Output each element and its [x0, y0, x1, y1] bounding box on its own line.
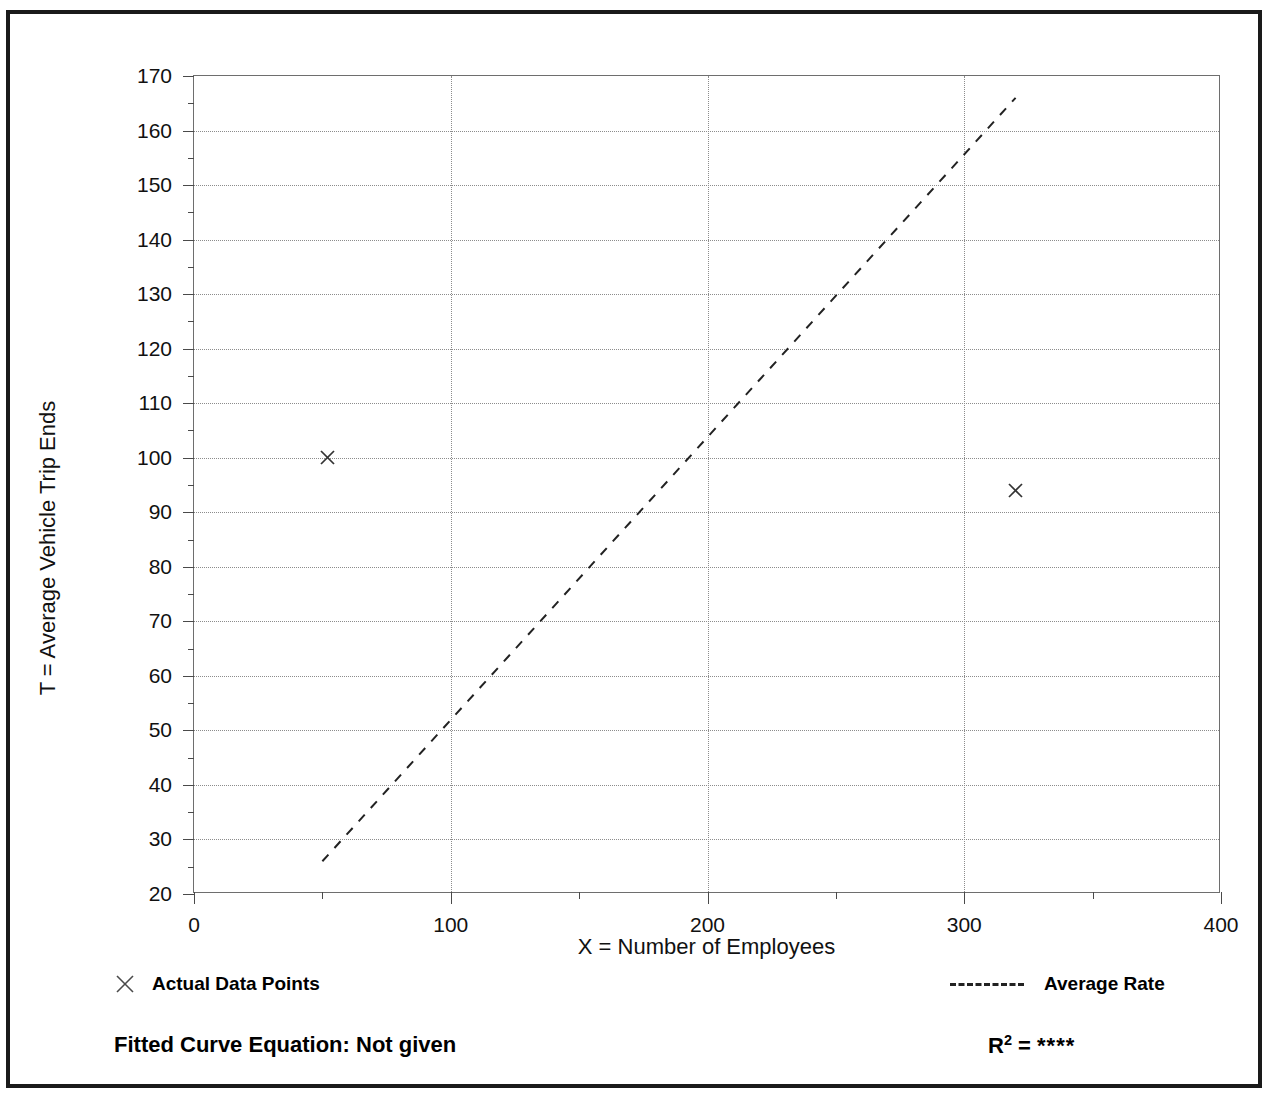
y-axis-tick	[183, 621, 194, 622]
chart-annotations: Fitted Curve Equation: Not given R2 = **…	[10, 1029, 1266, 1059]
y-axis-tick	[183, 294, 194, 295]
y-axis-tick-label: 20	[126, 883, 172, 904]
chart-frame: T = Average Vehicle Trip Ends X = Number…	[6, 10, 1262, 1088]
y-axis-tick	[183, 185, 194, 186]
x-axis-tick-label: 400	[1176, 914, 1266, 935]
chart-legend: Actual Data Points Average Rate	[10, 969, 1266, 999]
y-axis-tick	[183, 894, 194, 895]
r-squared-equals: =	[1012, 1033, 1037, 1058]
y-axis-tick-label: 120	[126, 338, 172, 359]
y-axis-tick-label: 80	[126, 556, 172, 577]
y-axis-tick-label: 160	[126, 120, 172, 141]
y-axis-tick-label: 60	[126, 665, 172, 686]
r-squared-prefix: R	[988, 1033, 1004, 1058]
y-axis-tick	[183, 76, 194, 77]
y-axis-tick-label: 130	[126, 283, 172, 304]
y-axis-tick	[183, 131, 194, 132]
plot-area: 2030405060708090100110120130140150160170…	[193, 75, 1220, 893]
y-axis-tick-label: 150	[126, 174, 172, 195]
x-axis-tick-label: 200	[663, 914, 753, 935]
y-axis-tick-label: 170	[126, 65, 172, 86]
y-axis-tick-label: 110	[126, 392, 172, 413]
y-axis-tick	[183, 240, 194, 241]
legend-entry-actual-data-points: Actual Data Points	[114, 969, 320, 999]
y-axis-tick-label: 100	[126, 447, 172, 468]
x-axis-tick-label: 0	[149, 914, 239, 935]
y-axis-tick	[183, 676, 194, 677]
y-axis-tick-label: 70	[126, 610, 172, 631]
x-marker-icon	[114, 973, 136, 995]
y-axis-tick-label: 50	[126, 719, 172, 740]
trend-line-segment	[322, 98, 1015, 861]
r-squared-exponent: 2	[1004, 1032, 1012, 1048]
y-axis-tick	[183, 349, 194, 350]
y-axis-title: T = Average Vehicle Trip Ends	[35, 288, 61, 808]
y-axis-tick	[183, 785, 194, 786]
y-axis-tick	[183, 730, 194, 731]
x-axis-title: X = Number of Employees	[193, 934, 1220, 960]
x-axis-tick	[1221, 892, 1222, 904]
y-axis-tick	[183, 512, 194, 513]
r-squared-value: ****	[1037, 1033, 1075, 1058]
average-rate-trend-line	[194, 76, 1221, 894]
chart-page: T = Average Vehicle Trip Ends X = Number…	[0, 0, 1274, 1099]
data-point-marker	[319, 449, 336, 466]
y-axis-tick-label: 140	[126, 229, 172, 250]
r-squared-annotation: R2 = ****	[988, 1032, 1075, 1059]
data-point-marker	[1007, 482, 1024, 499]
y-axis-tick	[183, 458, 194, 459]
x-axis-tick-label: 300	[919, 914, 1009, 935]
fitted-curve-equation: Fitted Curve Equation: Not given	[114, 1032, 456, 1058]
y-axis-tick-label: 30	[126, 828, 172, 849]
y-axis-tick	[183, 839, 194, 840]
x-axis-tick-label: 100	[406, 914, 496, 935]
legend-label-average-rate: Average Rate	[1044, 973, 1165, 995]
y-axis-tick	[183, 567, 194, 568]
y-axis-tick-label: 90	[126, 501, 172, 522]
page-title-strip	[0, 0, 1274, 10]
legend-entry-average-rate: Average Rate	[950, 969, 1165, 999]
y-axis-tick	[183, 403, 194, 404]
y-axis-tick-label: 40	[126, 774, 172, 795]
dashed-line-icon	[950, 983, 1024, 986]
legend-label-actual-data-points: Actual Data Points	[152, 973, 320, 995]
